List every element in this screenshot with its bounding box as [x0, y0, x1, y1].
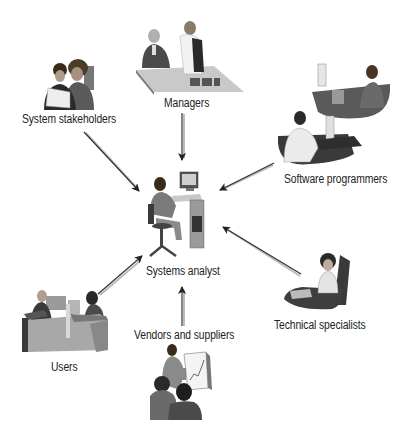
arrow-managers	[182, 113, 184, 160]
label-systems-analyst: Systems analyst	[146, 264, 220, 278]
label-system-stakeholders: System stakeholders	[22, 112, 116, 126]
technical-specialists-illustration	[282, 253, 354, 311]
arrow-vendors-and-suppliers	[182, 287, 184, 326]
vendors-and-suppliers-illustration	[150, 344, 222, 420]
software-programmers-illustration	[270, 64, 400, 164]
system-stakeholders-illustration	[40, 56, 98, 110]
label-software-programmers: Software programmers	[284, 172, 387, 186]
users-illustration	[20, 290, 110, 354]
systems-analyst-illustration	[146, 170, 216, 262]
label-users: Users	[51, 360, 78, 374]
arrow-system-stakeholders	[84, 132, 139, 191]
label-technical-specialists: Technical specialists	[274, 318, 366, 332]
managers-illustration	[132, 12, 244, 92]
label-managers: Managers	[164, 96, 209, 110]
arrow-software-programmers	[220, 163, 274, 190]
label-vendors-and-suppliers: Vendors and suppliers	[134, 328, 234, 342]
